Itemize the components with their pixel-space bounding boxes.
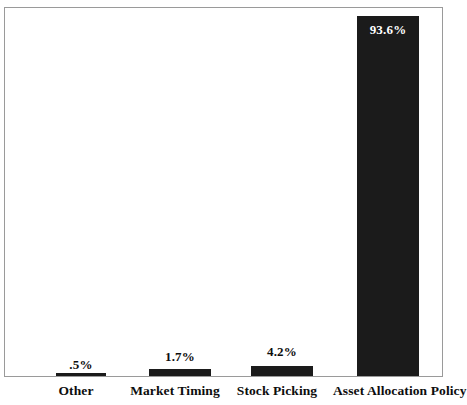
category-label-asset-allocation-policy: Asset Allocation Policy (333, 383, 451, 399)
category-label-stock-picking: Stock Picking (216, 383, 338, 399)
value-label-asset-allocation-policy: 93.6% (337, 22, 439, 38)
bar-other (56, 373, 106, 376)
value-label-stock-picking: 4.2% (231, 344, 333, 360)
plot-area (5, 8, 442, 376)
category-label-other: Other (26, 383, 126, 399)
bar-asset-allocation-policy (357, 16, 419, 376)
bar-market-timing (149, 369, 211, 376)
value-label-other: .5% (36, 357, 126, 373)
bar-stock-picking (251, 366, 313, 376)
value-label-market-timing: 1.7% (129, 349, 231, 365)
